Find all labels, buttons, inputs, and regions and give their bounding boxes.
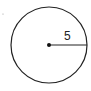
radius-label: 5 (64, 29, 71, 43)
circle-diagram: 5 (0, 0, 91, 91)
center-point (47, 43, 51, 47)
stray-dot (2, 13, 3, 14)
